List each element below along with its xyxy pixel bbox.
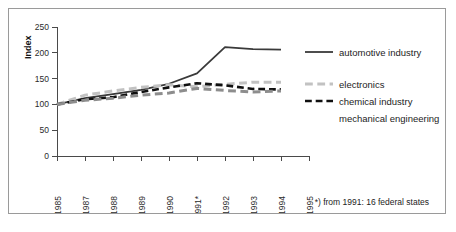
y-tick-label: 50 xyxy=(40,125,50,135)
legend-item-electronics: electronics xyxy=(339,79,385,90)
y-tick-label: 150 xyxy=(35,74,49,84)
x-tick-label: 1989 xyxy=(137,196,147,213)
x-tick-label: 1993 xyxy=(249,196,259,213)
x-tick-label: 1985 xyxy=(53,196,63,213)
y-tick-label: 200 xyxy=(35,48,49,58)
x-tick-label: 1988 xyxy=(109,196,119,213)
chart-frame: 250 200 150 100 50 0 Index xyxy=(8,8,446,214)
chart-figure: 250 200 150 100 50 0 Index xyxy=(0,0,456,232)
chart-footnote: *) from 1991: 16 federal states xyxy=(315,197,429,207)
y-axis-ticks xyxy=(52,27,57,156)
legend-item-automotive-industry: automotive industry xyxy=(339,47,422,58)
x-tick-label: 1995 xyxy=(305,196,315,213)
y-axis-title: Index xyxy=(23,35,33,59)
legend: automotive industry electronics chemical… xyxy=(339,47,439,124)
series-line-mechanical-engineering xyxy=(57,88,281,104)
legend-swatch-layer xyxy=(305,52,333,101)
y-tick-label: 100 xyxy=(35,99,49,109)
series-line-automotive-industry xyxy=(57,47,281,104)
x-tick-label: 1987 xyxy=(81,196,91,213)
x-tick-label: 1994 xyxy=(277,196,287,213)
x-axis-ticks xyxy=(57,156,309,161)
legend-item-mechanical-engineering: mechanical engineering xyxy=(339,113,439,124)
x-tick-label: 1991* xyxy=(193,195,203,213)
chart-plot-area: 250 200 150 100 50 0 Index xyxy=(9,9,445,213)
y-axis-tick-labels: 250 200 150 100 50 0 xyxy=(35,22,49,161)
series-layer xyxy=(57,47,281,104)
legend-item-chemical-industry: chemical industry xyxy=(339,96,413,107)
x-tick-label: 1992 xyxy=(221,196,231,213)
y-tick-label: 250 xyxy=(35,22,49,32)
y-tick-label: 0 xyxy=(44,151,49,161)
x-axis-tick-labels: 1985 1987 1988 1989 1990 1991* 1992 1993… xyxy=(53,195,315,213)
x-tick-label: 1990 xyxy=(165,196,175,213)
